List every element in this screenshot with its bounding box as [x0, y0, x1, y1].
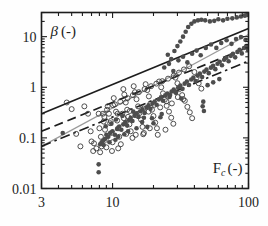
- data-point-filled: [239, 35, 244, 40]
- data-point-filled: [131, 109, 136, 114]
- data-point-open: [82, 104, 87, 109]
- data-point-filled: [230, 16, 235, 21]
- data-point-open: [155, 132, 160, 137]
- data-point-filled: [201, 99, 206, 104]
- data-point-open: [111, 96, 116, 101]
- data-point-filled: [220, 63, 225, 68]
- data-point-open: [154, 126, 159, 131]
- data-point-filled: [101, 143, 106, 148]
- data-point-filled: [178, 39, 183, 44]
- data-point-filled: [198, 53, 203, 58]
- data-point-filled: [172, 49, 177, 54]
- data-point-open: [98, 150, 103, 155]
- data-point-filled: [208, 19, 213, 24]
- y-tick-label: 1: [30, 80, 37, 95]
- data-point-filled: [205, 83, 210, 88]
- data-point-filled: [200, 75, 205, 80]
- x-axis-label: Fc(-): [213, 160, 243, 178]
- data-point-filled: [173, 90, 178, 95]
- data-point-filled: [209, 42, 214, 47]
- data-point-filled: [145, 125, 150, 130]
- data-point-filled: [183, 29, 188, 34]
- data-point-open: [146, 94, 151, 99]
- x-tick-label: 100: [238, 195, 259, 210]
- data-point-open: [199, 86, 204, 91]
- data-point-open: [121, 87, 126, 92]
- data-point-filled: [113, 137, 118, 142]
- data-point-filled: [179, 96, 184, 101]
- data-point-open: [143, 82, 148, 87]
- data-point-filled: [202, 109, 207, 114]
- y-tick-label: 0.01: [12, 182, 37, 197]
- data-point-open: [140, 124, 145, 129]
- data-point-filled: [176, 58, 181, 63]
- data-point-filled: [229, 42, 234, 47]
- y-axis-label: β(-): [50, 23, 76, 40]
- data-point-open: [171, 121, 176, 126]
- data-point-filled: [130, 119, 135, 124]
- data-point-filled: [120, 114, 125, 119]
- data-point-filled: [226, 59, 231, 64]
- data-point-open: [130, 135, 135, 140]
- data-point-filled: [96, 170, 101, 175]
- data-point-open: [159, 85, 164, 90]
- data-point-filled: [96, 162, 101, 167]
- data-point-filled: [203, 46, 208, 51]
- data-point-filled: [167, 62, 172, 67]
- data-point-filled: [186, 25, 191, 30]
- data-point-filled: [159, 112, 164, 117]
- data-point-open: [187, 110, 192, 115]
- scatter-plot: 3101000.010.1110β(-)Fc(-): [0, 0, 268, 226]
- data-point-filled: [225, 17, 230, 22]
- data-point-filled: [148, 107, 153, 112]
- data-point-open: [169, 101, 174, 106]
- data-point-filled: [194, 48, 199, 53]
- data-point-filled: [142, 111, 147, 116]
- series-open-circles: [64, 64, 204, 155]
- data-point-open: [74, 131, 79, 136]
- data-point-filled: [107, 140, 112, 145]
- data-point-filled: [181, 34, 186, 39]
- data-point-filled: [119, 127, 124, 132]
- data-point-open: [163, 127, 168, 132]
- data-point-filled: [240, 51, 245, 56]
- data-point-filled: [109, 121, 114, 126]
- data-point-open: [131, 84, 136, 89]
- data-point-filled: [206, 71, 211, 76]
- data-point-filled: [126, 129, 131, 134]
- data-point-filled: [114, 117, 119, 122]
- data-point-filled: [233, 55, 238, 60]
- data-point-filled: [193, 79, 198, 84]
- data-point-open: [190, 116, 195, 121]
- data-point-open: [116, 146, 121, 151]
- data-point-filled: [216, 17, 221, 22]
- data-point-filled: [161, 99, 166, 104]
- data-point-filled: [142, 115, 147, 120]
- data-point-filled: [140, 120, 145, 125]
- data-point-filled: [103, 124, 108, 129]
- data-point-filled: [213, 67, 218, 72]
- data-point-filled: [214, 46, 219, 51]
- data-point-filled: [171, 69, 176, 74]
- x-tick-label: 10: [106, 195, 120, 210]
- data-point-filled: [219, 41, 224, 46]
- figure-container: 3101000.010.1110β(-)Fc(-): [0, 0, 268, 226]
- data-point-open: [88, 129, 93, 134]
- data-point-filled: [224, 38, 229, 43]
- data-point-filled: [217, 77, 222, 82]
- data-point-open: [78, 144, 83, 149]
- data-point-open: [91, 149, 96, 154]
- data-point-filled: [181, 54, 186, 59]
- data-point-filled: [180, 87, 185, 92]
- x-tick-label: 3: [38, 195, 45, 210]
- data-point-filled: [187, 83, 192, 88]
- data-point-filled: [166, 52, 171, 57]
- data-point-filled: [134, 126, 139, 131]
- data-point-filled: [150, 116, 155, 121]
- data-point-open: [134, 97, 139, 102]
- data-point-filled: [154, 103, 159, 108]
- data-point-open: [185, 104, 190, 109]
- data-point-filled: [151, 121, 156, 126]
- data-point-filled: [60, 131, 65, 136]
- data-point-open: [133, 132, 138, 137]
